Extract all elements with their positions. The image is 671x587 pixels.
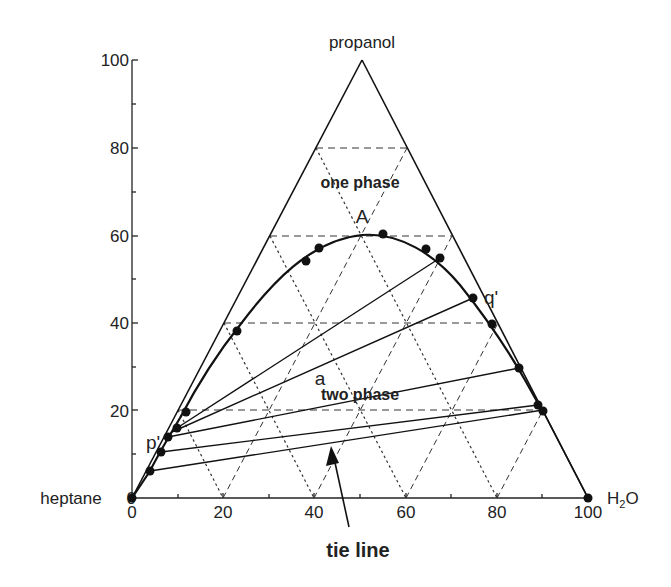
vertex-label-heptane: heptane — [40, 489, 101, 508]
binodal-curve — [132, 235, 545, 498]
tick-label-60: 60 — [110, 227, 129, 246]
bottom-axis — [132, 493, 588, 498]
tick-label-60: 60 — [397, 503, 416, 522]
left-axis-tick-labels: 100 80 60 40 20 0 — [101, 51, 136, 508]
tick-label-20: 20 — [214, 503, 233, 522]
binodal-curve-lower-right — [545, 415, 588, 498]
data-points — [128, 230, 593, 503]
tick-label-0: 0 — [127, 503, 136, 522]
tick-label-100: 100 — [101, 51, 129, 70]
tick-label-20: 20 — [110, 402, 129, 421]
point-a-label: a — [315, 368, 326, 389]
tie-line-label: tie line — [326, 539, 389, 561]
plait-point-label: A — [356, 206, 369, 227]
ternary-phase-diagram: 100 80 60 40 20 0 0 20 40 60 80 100 — [0, 0, 671, 587]
region-label-one-phase: one phase — [320, 174, 399, 191]
q-prime-label: q' — [484, 287, 498, 308]
region-label-two-phase: two phase — [321, 386, 399, 403]
bottom-axis-tick-labels: 0 20 40 60 80 100 — [127, 503, 602, 522]
ternary-triangle — [132, 60, 588, 498]
p-prime-label: p' — [146, 432, 160, 453]
left-axis — [132, 60, 138, 498]
vertex-label-water: H2O — [607, 489, 639, 510]
tick-label-100: 100 — [574, 503, 602, 522]
vertex-label-propanol: propanol — [329, 33, 395, 52]
tie-line-arrow — [326, 446, 349, 527]
tick-label-40: 40 — [110, 314, 129, 333]
tick-label-80: 80 — [488, 503, 507, 522]
tick-label-80: 80 — [110, 139, 129, 158]
tick-label-40: 40 — [305, 503, 324, 522]
